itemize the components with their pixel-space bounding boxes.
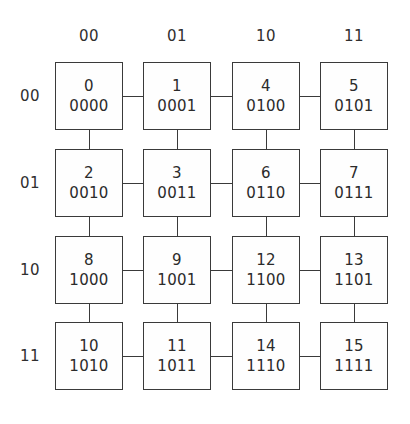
node-box[interactable]: 141110 — [232, 322, 300, 390]
link-horizontal-r3-c1 — [211, 356, 232, 357]
node-decimal-label: 11 — [167, 337, 187, 356]
node-box[interactable]: 121100 — [232, 236, 300, 304]
node-decimal-label: 8 — [84, 251, 94, 270]
link-horizontal-r2-c1 — [211, 270, 232, 271]
node-binary-label: 1101 — [334, 270, 373, 290]
node-binary-label: 0011 — [157, 183, 196, 203]
node-box[interactable]: 151111 — [320, 322, 388, 390]
node-binary-label: 1001 — [157, 270, 196, 290]
node-decimal-label: 5 — [349, 77, 359, 96]
link-vertical-c2-r0 — [266, 130, 267, 149]
node-decimal-label: 9 — [172, 251, 182, 270]
link-vertical-c2-r1 — [266, 217, 267, 236]
link-vertical-c3-r2 — [354, 304, 355, 322]
node-decimal-label: 15 — [344, 337, 364, 356]
link-vertical-c1-r2 — [177, 304, 178, 322]
column-header-2: 10 — [232, 27, 300, 45]
node-decimal-label: 2 — [84, 164, 94, 183]
link-horizontal-r3-c2 — [300, 356, 320, 357]
node-decimal-label: 1 — [172, 77, 182, 96]
node-box[interactable]: 81000 — [55, 236, 123, 304]
node-binary-label: 0100 — [246, 96, 285, 116]
node-box[interactable]: 20010 — [55, 149, 123, 217]
link-vertical-c0-r0 — [89, 130, 90, 149]
node-decimal-label: 3 — [172, 164, 182, 183]
node-box[interactable]: 00000 — [55, 62, 123, 130]
link-vertical-c1-r1 — [177, 217, 178, 236]
node-box[interactable]: 10001 — [143, 62, 211, 130]
link-horizontal-r0-c0 — [123, 96, 143, 97]
node-decimal-label: 12 — [256, 251, 276, 270]
link-horizontal-r1-c0 — [123, 183, 143, 184]
node-binary-label: 0000 — [69, 96, 108, 116]
link-vertical-c2-r2 — [266, 304, 267, 322]
link-horizontal-r2-c0 — [123, 270, 143, 271]
column-header-0: 00 — [55, 27, 123, 45]
node-decimal-label: 14 — [256, 337, 276, 356]
node-decimal-label: 13 — [344, 251, 364, 270]
link-horizontal-r0-c2 — [300, 96, 320, 97]
row-header-0: 00 — [11, 87, 49, 105]
link-vertical-c0-r1 — [89, 217, 90, 236]
link-horizontal-r1-c2 — [300, 183, 320, 184]
node-decimal-label: 0 — [84, 77, 94, 96]
node-box[interactable]: 50101 — [320, 62, 388, 130]
node-binary-label: 1110 — [246, 356, 285, 376]
node-binary-label: 1010 — [69, 356, 108, 376]
node-box[interactable]: 101010 — [55, 322, 123, 390]
node-box[interactable]: 60110 — [232, 149, 300, 217]
node-box[interactable]: 30011 — [143, 149, 211, 217]
link-vertical-c3-r0 — [354, 130, 355, 149]
link-horizontal-r2-c2 — [300, 270, 320, 271]
node-binary-label: 0111 — [334, 183, 373, 203]
column-header-1: 01 — [143, 27, 211, 45]
node-binary-label: 1111 — [334, 356, 373, 376]
node-binary-label: 1011 — [157, 356, 196, 376]
column-header-3: 11 — [320, 27, 388, 45]
node-binary-label: 1100 — [246, 270, 285, 290]
link-vertical-c0-r2 — [89, 304, 90, 322]
node-decimal-label: 7 — [349, 164, 359, 183]
mesh-grid-diagram: 0001101100011011000001000140100501012001… — [0, 0, 410, 424]
node-decimal-label: 4 — [261, 77, 271, 96]
link-horizontal-r1-c1 — [211, 183, 232, 184]
node-binary-label: 0110 — [246, 183, 285, 203]
node-box[interactable]: 131101 — [320, 236, 388, 304]
node-box[interactable]: 40100 — [232, 62, 300, 130]
link-vertical-c1-r0 — [177, 130, 178, 149]
row-header-2: 10 — [11, 261, 49, 279]
node-binary-label: 1000 — [69, 270, 108, 290]
node-binary-label: 0001 — [157, 96, 196, 116]
link-horizontal-r0-c1 — [211, 96, 232, 97]
node-binary-label: 0010 — [69, 183, 108, 203]
node-decimal-label: 6 — [261, 164, 271, 183]
node-box[interactable]: 91001 — [143, 236, 211, 304]
node-binary-label: 0101 — [334, 96, 373, 116]
node-box[interactable]: 111011 — [143, 322, 211, 390]
row-header-1: 01 — [11, 174, 49, 192]
link-vertical-c3-r1 — [354, 217, 355, 236]
node-decimal-label: 10 — [79, 337, 99, 356]
row-header-3: 11 — [11, 347, 49, 365]
link-horizontal-r3-c0 — [123, 356, 143, 357]
node-box[interactable]: 70111 — [320, 149, 388, 217]
